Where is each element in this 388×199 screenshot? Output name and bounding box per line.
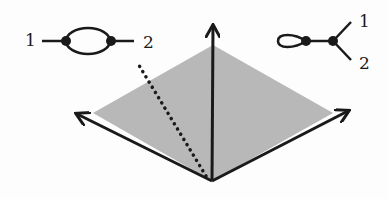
leg-label-1: 1 <box>25 30 36 50</box>
leg-label-2: 2 <box>359 53 370 73</box>
tadpole-graph-inset: 1 2 <box>278 11 370 73</box>
cone-diagram: 1 2 1 2 <box>0 0 388 199</box>
up-axis-arrow <box>212 26 213 181</box>
leg-label-2: 2 <box>143 32 154 52</box>
bubble-graph-inset: 1 2 <box>25 28 154 54</box>
leg-label-1: 1 <box>359 11 370 31</box>
diagram-canvas: 1 2 1 2 <box>0 0 388 199</box>
vertex-dot <box>61 36 71 46</box>
